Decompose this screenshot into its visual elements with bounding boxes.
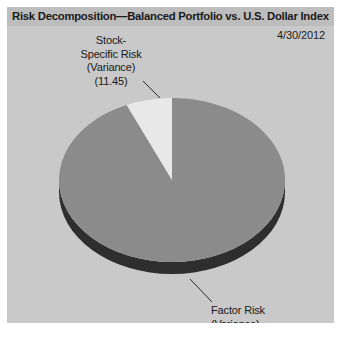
slice-label-factor-line-2: (Variance) <box>211 318 321 324</box>
slice-label-stock-line-3: (Variance) <box>63 61 159 75</box>
pie-slice-factor-risk <box>59 98 285 262</box>
chart-figure: Risk Decomposition—Balanced Portfolio vs… <box>7 7 334 323</box>
slice-label-stock-line-1: Stock- <box>63 34 159 48</box>
leader-line-factor-risk <box>190 279 212 302</box>
slice-label-factor-line-1: Factor Risk <box>211 304 321 318</box>
pie-chart <box>7 7 334 323</box>
pie-chart-svg <box>7 7 334 323</box>
slice-label-factor-risk: Factor Risk (Variance) (162.92) <box>211 304 321 323</box>
slice-label-stock-line-4: (11.45) <box>63 75 159 89</box>
slice-label-stock-specific-risk: Stock- Specific Risk (Variance) (11.45) <box>63 34 159 88</box>
slice-label-stock-line-2: Specific Risk <box>63 48 159 62</box>
